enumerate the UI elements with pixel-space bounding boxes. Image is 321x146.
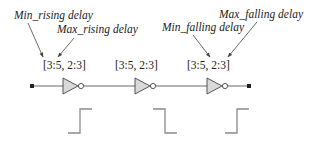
annotation-max-rising: Max_rising delay: [56, 23, 139, 36]
inverter-3: [207, 78, 228, 94]
annotation-min-rising: Min_rising delay: [13, 9, 94, 22]
inverter-2: [135, 78, 156, 94]
annotation-max-falling: Max_falling delay: [218, 8, 304, 21]
waveform-rising-2: [225, 109, 249, 133]
gate-2-delay-label: [3:5, 2:3]: [115, 59, 158, 72]
gate-1-delay-label: [3:5, 2:3]: [43, 59, 86, 72]
arrow-min-falling: [193, 35, 210, 57]
annotation-min-falling: Min_falling delay: [161, 21, 245, 34]
inverter-1: [63, 78, 84, 94]
waveforms: [68, 109, 249, 133]
waveform-falling: [153, 109, 177, 133]
inverter-chain-diagram: Min_rising delay Max_rising delay Min_fa…: [0, 0, 321, 146]
arrow-max-rising: [58, 38, 74, 57]
gate-3-delay-label: [3:5, 2:3]: [187, 59, 230, 72]
waveform-rising-1: [68, 109, 92, 133]
arrow-min-rising: [28, 23, 43, 57]
input-terminal: [30, 84, 34, 88]
output-terminal: [247, 84, 251, 88]
